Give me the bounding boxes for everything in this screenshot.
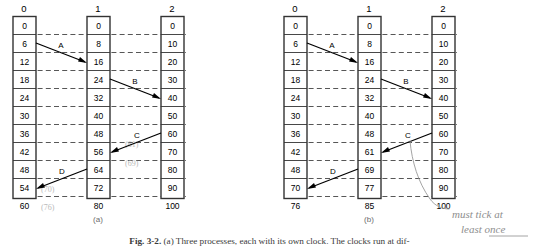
process-header-b-1: 1: [366, 3, 371, 14]
clock-cell: 12: [20, 57, 30, 67]
clock-cell: 56: [94, 147, 104, 157]
clock-cell: 77: [365, 183, 375, 193]
clock-cell: 50: [168, 111, 178, 121]
clock-cell: 20: [439, 57, 449, 67]
clock-cell: 6: [22, 39, 27, 49]
clock-cell: 60: [439, 129, 449, 139]
clock-cell: 0: [367, 21, 372, 31]
clock-cell: 24: [94, 75, 104, 85]
process-header-a-1: 1: [95, 3, 100, 14]
message-label: C: [405, 131, 411, 140]
message-label: A: [58, 41, 64, 50]
clock-cell: 80: [94, 201, 104, 211]
clock-cell: 80: [168, 165, 178, 175]
clock-cell: 60: [168, 129, 178, 139]
clock-cell: 24: [20, 93, 30, 103]
clock-cell: 16: [94, 57, 104, 67]
clock-cell: 80: [439, 165, 449, 175]
clock-cell: 18: [291, 75, 301, 85]
clock-cell: 30: [439, 75, 449, 85]
message-label: B: [403, 77, 408, 86]
figure-number: Fig. 3-2.: [129, 236, 161, 246]
clock-cell: 36: [20, 129, 30, 139]
clock-cell: 100: [165, 201, 179, 211]
clock-cell: 0: [293, 21, 298, 31]
clock-cell: 48: [20, 165, 30, 175]
subcaption-b: (b): [364, 215, 374, 224]
clock-cell: 54: [20, 183, 30, 193]
clock-cell: 30: [291, 111, 301, 121]
clock-cell: 60: [20, 201, 30, 211]
clock-cell: 76: [291, 201, 301, 211]
diagram-a: 0 1 2: [13, 3, 186, 224]
subcaption-a: (a): [93, 215, 103, 224]
message-label: D: [330, 167, 336, 176]
clock-cell: 100: [436, 201, 450, 211]
clock-cell: 40: [168, 93, 178, 103]
message-label: B: [132, 77, 137, 86]
clock-cell: 90: [439, 183, 449, 193]
annotation-line-2: least once: [461, 223, 505, 235]
clock-cell: 48: [291, 165, 301, 175]
clock-cell: 61: [365, 147, 375, 157]
clock-cell: 40: [439, 93, 449, 103]
clock-cell: 0: [22, 21, 27, 31]
clock-cell: 0: [441, 21, 446, 31]
figure-3-2: 0 1 2: [0, 0, 539, 252]
clock-cell: 32: [365, 93, 375, 103]
process-header-b-0: 0: [292, 3, 297, 14]
clock-cell: 0: [96, 21, 101, 31]
clock-cell: 24: [365, 75, 375, 85]
clock-cell: 40: [365, 111, 375, 121]
clock-cell: 70: [168, 147, 178, 157]
clock-cell: 30: [168, 75, 178, 85]
figure-caption: Fig. 3-2. (a) Three processes, each with…: [0, 236, 539, 246]
clock-cell: 8: [96, 39, 101, 49]
figure-caption-text: (a) Three processes, each with its own c…: [164, 236, 410, 246]
clock-cell: 64: [94, 165, 104, 175]
clock-cell: 24: [291, 93, 301, 103]
clock-cell: 6: [293, 39, 298, 49]
clock-cell: 8: [367, 39, 372, 49]
clock-cell: 70: [291, 183, 301, 193]
clock-cell: 16: [365, 57, 375, 67]
pencil-mark: (69): [125, 159, 139, 168]
clock-cell: 48: [365, 129, 375, 139]
clock-cell: 42: [291, 147, 301, 157]
clock-cell: 72: [94, 183, 104, 193]
process-header-b-2: 2: [440, 3, 445, 14]
clock-cell: 0: [170, 21, 175, 31]
clock-cell: 90: [168, 183, 178, 193]
clock-cell: 42: [20, 147, 30, 157]
clock-cell: 32: [94, 93, 104, 103]
process-header-a-0: 0: [21, 3, 26, 14]
diagram-b: 0 1 2: [284, 3, 457, 224]
clock-cell: 40: [94, 111, 104, 121]
clock-cell: 20: [168, 57, 178, 67]
clock-cell: 36: [291, 129, 301, 139]
pencil-mark: (76): [41, 203, 55, 212]
clock-cell: 69: [365, 165, 375, 175]
annotation-line-1: must tick at: [452, 208, 504, 220]
clock-cell: 48: [94, 129, 104, 139]
handwritten-annotation: must tick at least once: [410, 141, 528, 236]
clock-cell: 70: [439, 147, 449, 157]
clock-cell: 30: [20, 111, 30, 121]
clock-cell: 12: [291, 57, 301, 67]
message-label: D: [59, 167, 65, 176]
clock-cell: 85: [365, 201, 375, 211]
clock-cell: 10: [168, 39, 178, 49]
message-label: A: [329, 41, 335, 50]
message-label: C: [134, 131, 140, 140]
clock-cell: 50: [439, 111, 449, 121]
process-header-a-2: 2: [169, 3, 174, 14]
clock-cell: 10: [439, 39, 449, 49]
clock-cell: 18: [20, 75, 30, 85]
